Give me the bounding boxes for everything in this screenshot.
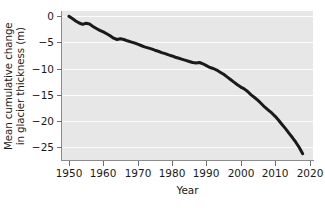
x-tick-label: 2020 <box>297 168 324 179</box>
x-axis-spine <box>61 160 314 161</box>
x-tick-label: 2000 <box>228 168 255 179</box>
y-tick-label: −15 <box>32 90 54 101</box>
x-tick-label: 2010 <box>262 168 289 179</box>
y-axis-title-line-1: Mean cumulative change <box>2 22 14 150</box>
x-tick <box>172 161 173 166</box>
y-tick <box>57 69 62 70</box>
x-tick-label: 1960 <box>90 168 117 179</box>
plot-area <box>62 11 313 160</box>
y-tick-label: −5 <box>39 37 54 48</box>
glacier-thickness-chart: Mean cumulative change in glacier thickn… <box>0 0 325 208</box>
x-tick <box>206 161 207 166</box>
x-tick-label: 1970 <box>125 168 152 179</box>
y-tick <box>57 121 62 122</box>
y-axis-spine <box>61 11 62 161</box>
y-tick <box>57 147 62 148</box>
x-axis-title: Year <box>62 184 313 196</box>
y-tick-label: −25 <box>32 142 54 153</box>
y-axis-title-line-2: in glacier thickness (m) <box>14 22 26 150</box>
y-tick <box>57 95 62 96</box>
x-tick-label: 1950 <box>56 168 83 179</box>
y-tick <box>57 42 62 43</box>
y-tick-label: 0 <box>47 11 54 22</box>
x-tick <box>241 161 242 166</box>
y-tick <box>57 16 62 17</box>
x-tick <box>103 161 104 166</box>
x-tick <box>138 161 139 166</box>
x-tick-label: 1990 <box>193 168 220 179</box>
line-series-svg <box>62 11 313 160</box>
y-tick-label: −10 <box>32 64 54 75</box>
data-line <box>69 16 303 154</box>
y-tick-label: −20 <box>32 116 54 127</box>
x-tick <box>310 161 311 166</box>
y-axis-title: Mean cumulative change in glacier thickn… <box>0 0 28 172</box>
x-tick <box>69 161 70 166</box>
x-tick-label: 1980 <box>159 168 186 179</box>
x-tick <box>275 161 276 166</box>
